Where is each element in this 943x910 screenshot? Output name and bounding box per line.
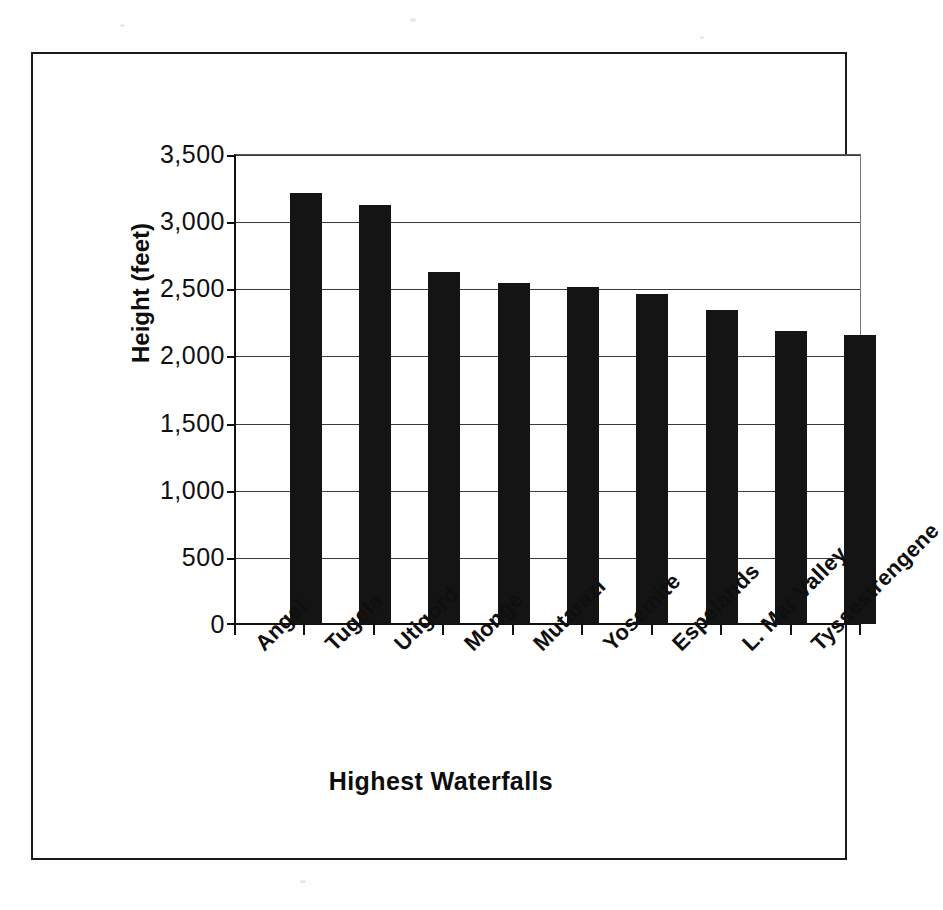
y-tick-mark — [227, 289, 236, 291]
bar-chart: Height (feet) 3,500 3,000 2,500 2,000 1,… — [31, 52, 847, 860]
bars-layer — [236, 155, 860, 624]
x-axis-title: Highest Waterfalls — [33, 767, 849, 796]
y-tick-mark — [227, 491, 236, 493]
scan-speck — [300, 880, 306, 883]
y-tick-label: 3,500 — [160, 140, 225, 169]
y-tick-label: 2,500 — [160, 274, 225, 303]
y-tick-label: 1,000 — [160, 475, 225, 504]
y-tick-mark — [227, 424, 236, 426]
scan-speck — [410, 18, 416, 22]
plot-area — [234, 154, 861, 624]
y-tick-label: 500 — [182, 542, 225, 571]
bar-monge[interactable] — [498, 283, 530, 624]
y-axis-tick-labels: 3,500 3,000 2,500 2,000 1,500 1,000 500 … — [141, 154, 225, 624]
bar-tugela[interactable] — [359, 205, 391, 624]
y-tick-label: 3,000 — [160, 207, 225, 236]
y-tick-mark — [227, 222, 236, 224]
y-tick-label: 1,500 — [160, 408, 225, 437]
scan-speck — [700, 36, 704, 39]
y-tick-label: 0 — [211, 610, 225, 639]
scan-speck — [120, 24, 125, 27]
bar-angel[interactable] — [290, 193, 322, 624]
y-tick-mark — [227, 558, 236, 560]
y-tick-label: 2,000 — [160, 341, 225, 370]
y-tick-mark — [227, 155, 236, 157]
bar-mutarazi[interactable] — [567, 287, 599, 624]
y-tick-mark — [227, 356, 236, 358]
bar-utigord[interactable] — [428, 272, 460, 624]
